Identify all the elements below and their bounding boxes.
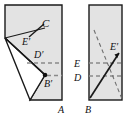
right-panel-sheet <box>89 5 122 100</box>
point-B-prime-dot <box>43 73 48 78</box>
label-D-prime: D′ <box>33 49 44 60</box>
label-C: C <box>42 17 50 29</box>
label-B: B <box>85 104 91 115</box>
label-B-prime: B′ <box>44 78 53 89</box>
label-A: A <box>57 104 65 115</box>
label-E: E <box>73 58 80 69</box>
geometry-figure: C E′ D′ B′ A E D E′ B <box>0 0 126 116</box>
figure-canvas: C E′ D′ B′ A E D E′ B <box>0 0 126 116</box>
right-panel <box>89 5 122 100</box>
label-E-prime-left: E′ <box>21 36 31 47</box>
label-E-prime-right: E′ <box>109 41 119 52</box>
label-D: D <box>73 72 82 83</box>
